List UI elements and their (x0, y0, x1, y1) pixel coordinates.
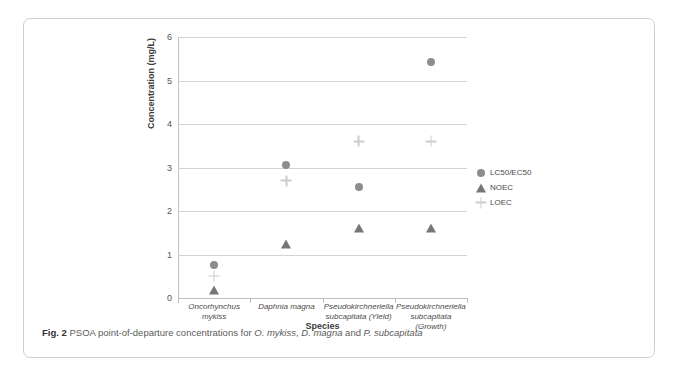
legend-label: LC50/EC50 (490, 168, 531, 177)
legend-item-noec[interactable]: NOEC (475, 180, 595, 195)
chart-area: Concentration (mg/L) 0123456 Oncorhynchu… (24, 19, 656, 319)
y-tick-label-3: 3 (167, 163, 172, 173)
legend-item-lc50-ec50[interactable]: LC50/EC50 (475, 165, 595, 180)
plus-icon (476, 197, 487, 208)
legend-marker-circle-icon (475, 167, 487, 179)
data-point-lc50-ec50-0 (210, 261, 218, 269)
data-point-lc50-ec50-2 (355, 183, 363, 191)
gridline-5 (178, 81, 467, 82)
data-point-loec-3 (425, 136, 436, 147)
chart-legend: LC50/EC50NOECLOEC (475, 165, 595, 210)
y-tick-label-6: 6 (167, 32, 172, 42)
data-point-loec-0 (209, 271, 220, 282)
caption-label: Fig. 2 (42, 327, 67, 338)
data-point-lc50-ec50-1 (282, 161, 290, 169)
category-label-line: Pseudokirchneriella (391, 302, 471, 312)
y-tick-label-5: 5 (167, 76, 172, 86)
data-point-noec-0 (209, 285, 219, 294)
data-point-lc50-ec50-3 (427, 58, 435, 66)
legend-item-loec[interactable]: LOEC (475, 195, 595, 210)
plot-area: 0123456 (178, 37, 467, 298)
gridline-2 (178, 211, 467, 212)
gridline-4 (178, 124, 467, 125)
category-label-0: Oncorhynchusmykiss (174, 302, 254, 322)
caption-species-1: O. mykiss (254, 327, 296, 338)
triangle-icon (476, 183, 486, 192)
caption-species-3: P. subcapitata (364, 327, 423, 338)
gridline-3 (178, 168, 467, 169)
gridline-1 (178, 255, 467, 256)
y-tick-label-2: 2 (167, 206, 172, 216)
category-label-line: Pseudokirchneriella (319, 302, 399, 312)
gridline-6 (178, 37, 467, 38)
data-point-loec-1 (281, 175, 292, 186)
category-label-line: Daphnia magna (246, 302, 326, 312)
category-label-2: Pseudokirchneriellasubcapitata (Yield) (319, 302, 399, 322)
legend-marker-triangle-icon (475, 182, 487, 194)
y-tick-label-0: 0 (167, 293, 172, 303)
data-point-loec-2 (353, 136, 364, 147)
legend-marker-plus-icon (475, 197, 487, 209)
figure-card: Concentration (mg/L) 0123456 Oncorhynchu… (23, 18, 655, 358)
category-label-1: Daphnia magna (246, 302, 326, 312)
data-point-noec-2 (354, 223, 364, 232)
data-point-noec-1 (281, 240, 291, 249)
y-tick-label-4: 4 (167, 119, 172, 129)
data-point-noec-3 (426, 223, 436, 232)
caption-sep-2: and (342, 327, 363, 338)
circle-icon (477, 169, 485, 177)
category-label-line: Oncorhynchus (174, 302, 254, 312)
legend-label: LOEC (490, 198, 512, 207)
caption-text-1: PSOA point-of-departure concentrations f… (69, 327, 254, 338)
caption-species-2: D. magna (301, 327, 342, 338)
y-tick-label-1: 1 (167, 250, 172, 260)
legend-label: NOEC (490, 183, 513, 192)
y-axis-title: Concentration (mg/L) (146, 38, 156, 129)
figure-caption: Fig. 2 PSOA point-of-departure concentra… (42, 326, 642, 339)
